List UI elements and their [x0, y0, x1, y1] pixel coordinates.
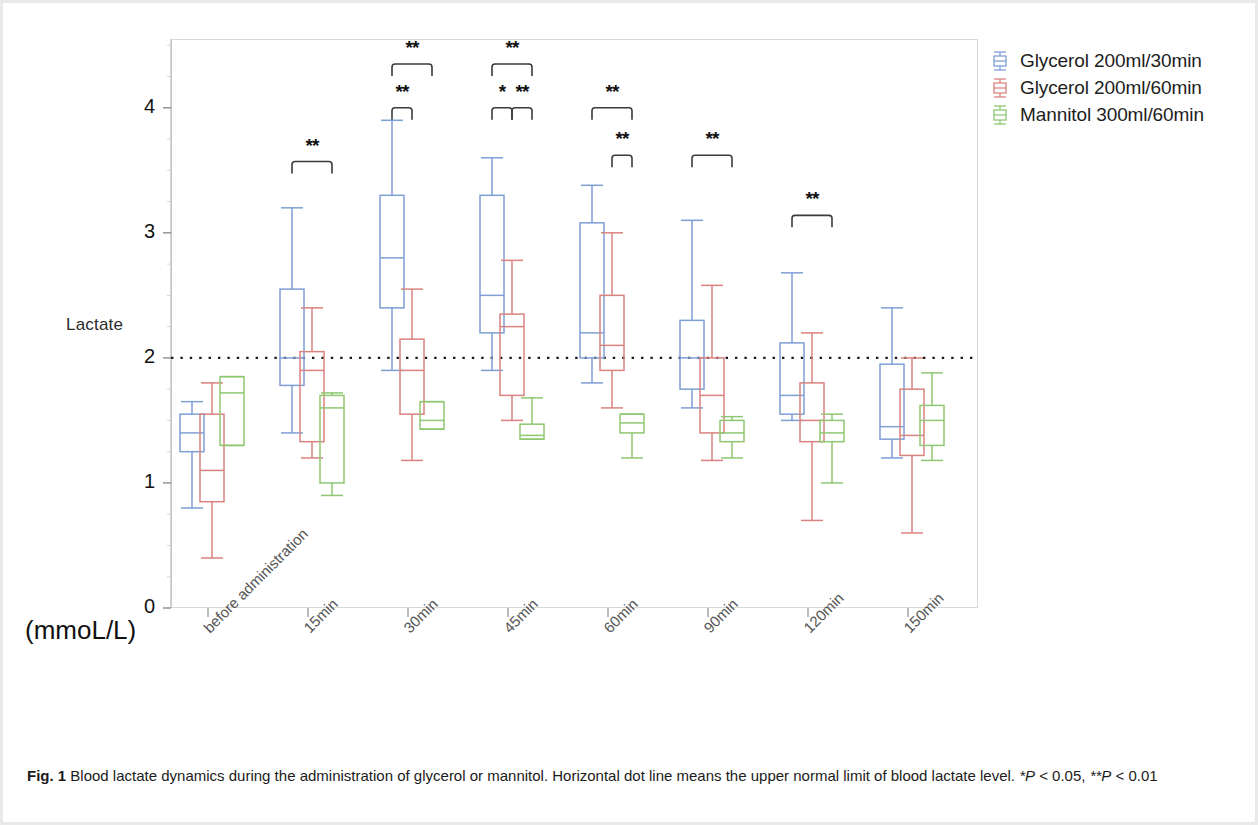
- significance-bracket: [392, 64, 432, 76]
- caption-body: Blood lactate dynamics during the admini…: [66, 767, 1019, 784]
- y-tick-0: 0: [121, 595, 155, 618]
- legend-glycerol-60min[interactable]: Glycerol 200ml/60min: [989, 74, 1251, 101]
- legend-glycerol-30min[interactable]: Glycerol 200ml/30min: [989, 47, 1251, 74]
- series-glycerol-200ml-60min: [200, 233, 924, 558]
- caption-sig-two: **P: [1090, 767, 1112, 784]
- caption-figure-number: Fig. 1: [27, 767, 66, 784]
- box-30min: [400, 289, 424, 460]
- significance-label: **: [616, 128, 629, 150]
- caption-sig-one-value: < 0.05,: [1035, 767, 1090, 784]
- significance-label: **: [306, 135, 319, 157]
- significance-bracket: [492, 64, 532, 76]
- significance-label: **: [606, 81, 619, 103]
- significance-bracket: [692, 155, 732, 167]
- legend-boxplot-icon: [989, 50, 1011, 72]
- significance-bracket: [592, 108, 632, 120]
- significance-bracket: [612, 155, 632, 167]
- significance-bracket: [492, 108, 512, 120]
- significance-label: *: [499, 81, 505, 103]
- significance-label: **: [806, 188, 819, 210]
- legend-item-label: Glycerol 200ml/30min: [1020, 50, 1202, 72]
- significance-label: **: [506, 37, 519, 59]
- box-45min: [520, 398, 544, 439]
- significance-label: **: [406, 37, 419, 59]
- legend-item-label: Mannitol 300ml/60min: [1020, 104, 1204, 126]
- y-tick-4: 4: [121, 95, 155, 118]
- y-tick-1: 1: [121, 470, 155, 493]
- significance-bracket: [392, 108, 412, 120]
- significance-bracket: [512, 108, 532, 120]
- significance-bracket: [792, 215, 832, 227]
- figure-caption: Fig. 1 Blood lactate dynamics during the…: [27, 765, 1232, 786]
- box-30min: [380, 120, 404, 370]
- caption-sig-one: *P: [1019, 767, 1035, 784]
- significance-label: **: [706, 128, 719, 150]
- box-60min: [620, 414, 644, 458]
- legend-boxplot-icon: [989, 104, 1011, 126]
- significance-label: **: [516, 81, 529, 103]
- box-15min: [320, 393, 344, 496]
- legend-boxplot-icon: [989, 77, 1011, 99]
- legend-mannitol-60min[interactable]: Mannitol 300ml/60min: [989, 101, 1251, 128]
- figure-container: Lactate (mmoL/L) 01234 before administra…: [0, 0, 1258, 825]
- series-glycerol-200ml-30min: [180, 120, 904, 508]
- caption-sig-two-value: < 0.01: [1111, 767, 1157, 784]
- legend-item-label: Glycerol 200ml/60min: [1020, 77, 1202, 99]
- significance-label: **: [396, 81, 409, 103]
- series-mannitol-300ml-60min: [220, 373, 944, 496]
- y-tick-2: 2: [121, 345, 155, 368]
- legend: Glycerol 200ml/30minGlycerol 200ml/60min…: [989, 47, 1251, 128]
- significance-bracket: [292, 162, 332, 174]
- y-tick-3: 3: [121, 220, 155, 243]
